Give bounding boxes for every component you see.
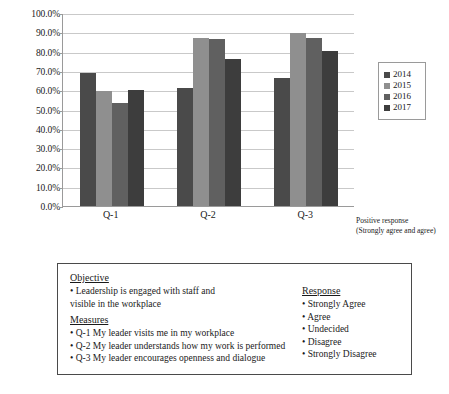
y-axis-tick: 0.0% [41, 202, 60, 212]
objective-item: visible in the workplace [70, 298, 298, 311]
y-axis-tick-labels: 0.0%10.0%20.0%30.0%40.0%50.0%60.0%70.0%8… [8, 14, 60, 207]
response-item: • Undecided [302, 323, 401, 336]
bar-2015-Q-3 [290, 33, 306, 206]
info-box: Objective • Leadership is engaged with s… [57, 263, 412, 375]
info-box-right-column: Response • Strongly Agree• Agree• Undeci… [298, 272, 401, 368]
bar-2017-Q-2 [225, 59, 241, 206]
y-axis-tick: 40.0% [36, 125, 60, 135]
legend-swatch-icon [384, 72, 390, 78]
bar-2016-Q-1 [112, 103, 128, 206]
y-axis-tick: 60.0% [36, 86, 60, 96]
x-axis-tick-Q-2: Q-2 [159, 209, 256, 220]
axis-caption-line-2: (Strongly agree and agree) [356, 226, 449, 236]
plot-area [62, 14, 354, 207]
y-axis-tick: 30.0% [36, 144, 60, 154]
bar-group [63, 14, 160, 206]
bar-2016-Q-3 [306, 38, 322, 206]
y-axis-tick: 80.0% [36, 48, 60, 58]
response-items: • Strongly Agree• Agree• Undecided• Disa… [302, 298, 401, 361]
bar-2016-Q-2 [209, 39, 225, 206]
axis-caption: Positive response (Strongly agree and ag… [356, 216, 449, 236]
objective-item: • Leadership is engaged with staff and [70, 285, 298, 298]
y-axis-tick: 50.0% [36, 106, 60, 116]
y-axis-tickmark [59, 207, 63, 208]
legend-label: 2014 [393, 70, 411, 79]
measures-items: • Q-1 My leader visits me in my workplac… [70, 327, 298, 365]
legend-swatch-icon [384, 83, 390, 89]
legend-label: 2016 [393, 92, 411, 101]
axis-caption-line-1: Positive response [356, 216, 449, 226]
measure-item: • Q-2 My leader understands how my work … [70, 340, 298, 353]
bar-chart: 0.0%10.0%20.0%30.0%40.0%50.0%60.0%70.0%8… [0, 0, 449, 258]
legend-label: 2017 [393, 103, 411, 112]
bar-group [257, 14, 354, 206]
x-axis-tick-Q-3: Q-3 [257, 209, 354, 220]
bar-2014-Q-3 [274, 78, 290, 206]
y-axis-tick: 70.0% [36, 67, 60, 77]
measure-item: • Q-1 My leader visits me in my workplac… [70, 327, 298, 340]
bar-2015-Q-2 [193, 38, 209, 206]
bar-2014-Q-1 [80, 73, 96, 206]
bar-group [160, 14, 257, 206]
legend-item-2016[interactable]: 2016 [384, 92, 421, 101]
y-axis-tick: 100.0% [31, 9, 60, 19]
response-item: • Strongly Disagree [302, 348, 401, 361]
chart-page: 0.0%10.0%20.0%30.0%40.0%50.0%60.0%70.0%8… [0, 0, 449, 394]
x-axis-tick-labels: Q-1Q-2Q-3 [62, 209, 354, 220]
bar-2014-Q-2 [177, 88, 193, 206]
objective-heading: Objective [70, 272, 298, 283]
bar-2017-Q-3 [322, 51, 338, 206]
y-axis-tick: 10.0% [36, 183, 60, 193]
legend-item-2017[interactable]: 2017 [384, 103, 421, 112]
response-heading: Response [302, 285, 401, 296]
legend-swatch-icon [384, 94, 390, 100]
legend-item-2015[interactable]: 2015 [384, 81, 421, 90]
measure-item: • Q-3 My leader encourages openness and … [70, 352, 298, 365]
objective-items: • Leadership is engaged with staff andvi… [70, 285, 298, 310]
measures-heading: Measures [70, 314, 298, 325]
legend-item-2014[interactable]: 2014 [384, 70, 421, 79]
bar-2015-Q-1 [96, 91, 112, 206]
chart-legend: 2014201520162017 [378, 62, 426, 120]
response-item: • Strongly Agree [302, 298, 401, 311]
x-axis-tick-Q-1: Q-1 [62, 209, 159, 220]
bar-2017-Q-1 [128, 90, 144, 206]
info-box-left-column: Objective • Leadership is engaged with s… [70, 272, 298, 368]
response-item: • Disagree [302, 336, 401, 349]
y-axis-tick: 90.0% [36, 28, 60, 38]
bar-groups [63, 14, 354, 206]
legend-swatch-icon [384, 105, 390, 111]
response-item: • Agree [302, 311, 401, 324]
legend-label: 2015 [393, 81, 411, 90]
y-axis-tick: 20.0% [36, 163, 60, 173]
